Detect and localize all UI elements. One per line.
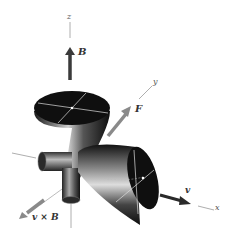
z-axis-label: z (67, 13, 71, 21)
x-axis (198, 206, 214, 210)
f-vector-arrow (108, 106, 131, 136)
v-vector-label: v (185, 186, 190, 195)
bottom-tube (62, 168, 80, 204)
right-cone (78, 143, 165, 225)
b-vector-label: B (78, 47, 86, 57)
b-vector-arrow (65, 47, 75, 80)
vxb-vector-label: v × B (32, 213, 59, 222)
diagram-graphic (0, 0, 230, 241)
f-vector-label: F (135, 104, 142, 114)
x-axis-back (12, 153, 36, 158)
y-axis-label: y (153, 78, 158, 86)
x-axis-label: x (215, 204, 220, 212)
v-vector-arrow (160, 195, 191, 205)
cone-vector-diagram: z B y F v x v × B (0, 0, 230, 241)
